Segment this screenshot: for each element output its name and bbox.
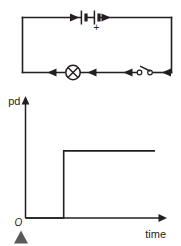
figure-root: + bbox=[0, 0, 181, 246]
circuit-and-graph-figure: + bbox=[0, 0, 181, 246]
current-arrow-top-left bbox=[70, 14, 79, 22]
switch-symbol bbox=[137, 66, 152, 74]
switch-lever bbox=[141, 66, 150, 71]
current-arrow-top-right bbox=[102, 14, 111, 22]
current-arrow-bottom-4 bbox=[162, 69, 171, 77]
x-axis-arrowhead bbox=[159, 214, 168, 222]
y-axis-label: pd bbox=[8, 95, 20, 107]
lamp-symbol bbox=[66, 65, 80, 79]
current-arrow-bottom-2 bbox=[87, 69, 96, 77]
x-axis-label: time bbox=[145, 228, 166, 240]
origin-label: O bbox=[15, 217, 23, 228]
y-axis-arrowhead bbox=[22, 96, 30, 105]
pd-step-curve bbox=[26, 151, 156, 218]
current-arrow-bottom-1 bbox=[47, 69, 56, 77]
page-marker-triangle-icon bbox=[14, 231, 28, 244]
circuit-diagram: + bbox=[23, 11, 172, 80]
battery-cell-1 bbox=[81, 11, 86, 25]
switch-terminal-left bbox=[137, 70, 142, 75]
pd-time-graph: pd time O bbox=[8, 95, 167, 241]
battery-polarity-label: + bbox=[94, 22, 100, 33]
current-arrow-bottom-3 bbox=[123, 69, 132, 77]
